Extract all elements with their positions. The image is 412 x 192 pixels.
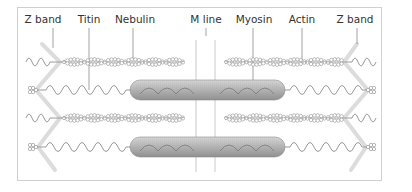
label-myosin: Myosin [236,13,273,25]
label-nebulin: Nebulin [115,13,155,25]
label-z-band-right: Z band [337,13,374,25]
label-z-band-left: Z band [25,13,62,25]
label-m-line: M line [190,13,221,25]
label-actin: Actin [289,13,315,25]
sarcomere-diagram: Z band Titin Nebulin M line Myosin Actin… [0,0,412,192]
label-titin: Titin [77,13,101,25]
